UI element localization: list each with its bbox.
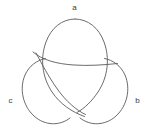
knot-lobe-c: [22, 52, 117, 124]
knot-lobe-c-arc-lower: [22, 59, 70, 124]
knot-lobe-b-arc-upper: [80, 59, 128, 124]
lobe-label-c: c: [6, 97, 15, 105]
knot-lobe-b-arc-lower: [36, 53, 86, 115]
trefoil-knot-figure: a c b: [0, 0, 153, 129]
lobe-label-a: a: [70, 4, 79, 12]
knot-diagram-svg: [0, 0, 153, 129]
knot-lobe-a-arc-left: [43, 19, 85, 117]
lobe-label-b: b: [133, 97, 142, 105]
knot-lobe-a: [43, 19, 108, 117]
